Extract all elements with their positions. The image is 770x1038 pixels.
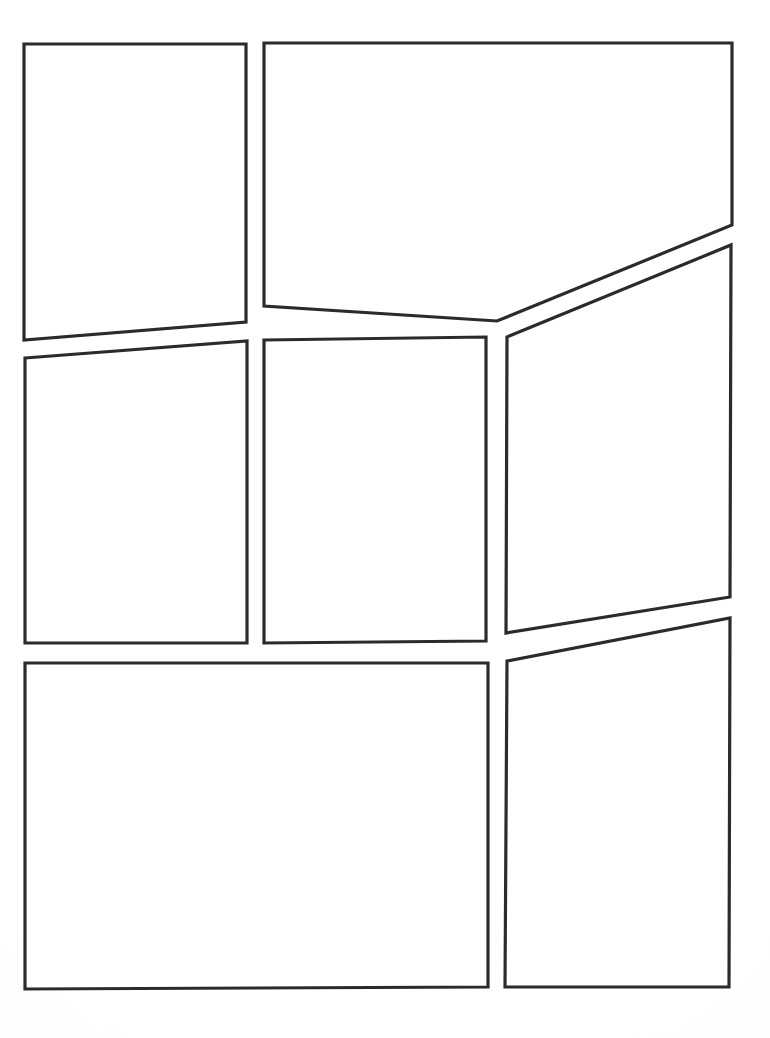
panel-layout (0, 0, 770, 1038)
comic-page (0, 0, 770, 1038)
panel-row3-left[interactable] (25, 663, 488, 989)
panel-row2-left[interactable] (25, 341, 247, 643)
panel-row3-right[interactable] (505, 618, 730, 987)
panel-row2-center[interactable] (264, 337, 486, 643)
panel-row1-left[interactable] (24, 44, 246, 340)
panels-group (24, 43, 732, 989)
